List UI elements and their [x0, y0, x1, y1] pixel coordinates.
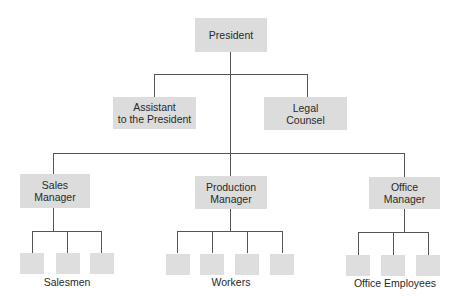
connector-salesman-1	[32, 231, 33, 253]
office-employee-box-1	[346, 255, 370, 276]
connector-legal	[307, 74, 308, 97]
connector-staff-horizontal	[154, 74, 308, 75]
sales-label-line2: Manager	[34, 191, 75, 203]
office-label-line1: Office	[391, 181, 418, 193]
legal-label-line1: Legal	[293, 102, 319, 114]
sales-manager-box: Sales Manager	[20, 174, 90, 208]
worker-box-2	[200, 254, 224, 275]
connector-managers-horizontal	[53, 153, 404, 154]
production-label-line1: Production	[206, 181, 256, 193]
connector-assistant	[154, 74, 155, 97]
assistant-box: Assistant to the President	[113, 97, 196, 129]
connector-production-down	[230, 209, 231, 231]
worker-box-1	[166, 254, 190, 275]
connector-office-down	[404, 209, 405, 232]
connector-office-employee-2	[393, 232, 394, 255]
connector-office-employee-3	[428, 232, 429, 255]
office-employees-label: Office Employees	[354, 277, 436, 289]
connector-workers-horizontal	[177, 231, 283, 232]
office-manager-box: Office Manager	[369, 177, 440, 209]
worker-box-3	[235, 254, 259, 275]
connector-office-employee-1	[358, 232, 359, 255]
connector-worker-2	[212, 231, 213, 253]
president-label: President	[209, 29, 253, 41]
connector-sales	[53, 153, 54, 174]
production-label-line2: Manager	[210, 193, 251, 205]
connector-salesman-3	[101, 231, 102, 253]
office-employee-box-3	[416, 255, 440, 276]
salesmen-label: Salesmen	[44, 276, 91, 288]
connector-worker-4	[282, 231, 283, 253]
connector-worker-1	[177, 231, 178, 253]
assistant-label-line1: Assistant	[133, 101, 176, 113]
production-manager-box: Production Manager	[195, 176, 267, 209]
legal-label-line2: Counsel	[286, 114, 325, 126]
workers-label: Workers	[212, 276, 251, 288]
sales-label-line1: Sales	[42, 179, 68, 191]
worker-box-4	[270, 254, 294, 275]
office-label-line2: Manager	[384, 193, 425, 205]
legal-counsel-box: Legal Counsel	[264, 97, 347, 130]
assistant-label-line2: to the President	[118, 113, 192, 125]
salesman-box-3	[90, 253, 114, 274]
connector-worker-3	[247, 231, 248, 253]
salesman-box-2	[56, 253, 80, 274]
president-box: President	[195, 18, 267, 52]
office-employee-box-2	[381, 255, 405, 276]
connector-salesman-2	[67, 231, 68, 253]
connector-office	[404, 153, 405, 177]
connector-sales-down	[53, 208, 54, 231]
salesman-box-1	[20, 253, 44, 274]
connector-president-main	[230, 52, 231, 176]
